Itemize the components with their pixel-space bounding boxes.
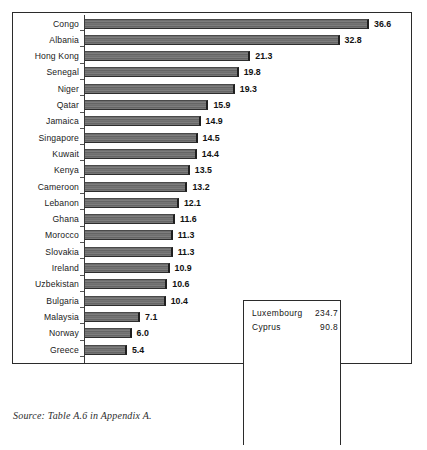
bar-row: Singapore14.5 xyxy=(13,130,411,146)
bar xyxy=(85,279,167,289)
bar-value-label: 10.4 xyxy=(171,293,188,309)
bar-value-label: 15.9 xyxy=(213,97,230,113)
bar-row: Lebanon12.1 xyxy=(13,195,411,211)
offscale-value-label: 90.8 xyxy=(308,322,338,332)
bar-value-label: 10.9 xyxy=(175,260,192,276)
bar-row: Morocco11.3 xyxy=(13,227,411,243)
category-label: Bulgaria xyxy=(13,293,79,309)
bar-value-label: 12.1 xyxy=(184,195,201,211)
bar xyxy=(85,84,235,94)
bar xyxy=(85,296,166,306)
bar xyxy=(85,263,170,273)
bar-row: Kuwait14.4 xyxy=(13,146,411,162)
bar-value-label: 14.9 xyxy=(206,113,223,129)
bar-value-label: 11.3 xyxy=(178,244,195,260)
offscale-row: Luxembourg234.7 xyxy=(252,308,340,322)
axis-tick xyxy=(80,356,84,357)
bar-row: Greece5.4 xyxy=(13,342,411,358)
bar xyxy=(85,51,250,61)
offscale-values-box: Luxembourg234.7Cyprus90.8 xyxy=(243,300,341,445)
bar xyxy=(85,165,190,175)
bar-value-label: 32.8 xyxy=(345,32,362,48)
offscale-country-label: Cyprus xyxy=(252,322,281,332)
bar-value-label: 6.0 xyxy=(137,325,149,341)
bar-row: Malaysia7.1 xyxy=(13,309,411,325)
bar-value-label: 5.4 xyxy=(132,342,144,358)
offscale-row: Cyprus90.8 xyxy=(252,322,340,336)
bar xyxy=(85,214,175,224)
category-label: Greece xyxy=(13,342,79,358)
bar xyxy=(85,230,173,240)
bar xyxy=(85,116,201,126)
category-label: Malaysia xyxy=(13,309,79,325)
plot-area: Congo36.6Albania32.8Hong Kong21.3Senegal… xyxy=(13,13,411,363)
bar-row: Qatar15.9 xyxy=(13,97,411,113)
category-label: Uzbekistan xyxy=(13,276,79,292)
bar-row: Norway6.0 xyxy=(13,325,411,341)
bar-value-label: 14.5 xyxy=(203,130,220,146)
bar-row: Bulgaria10.4 xyxy=(13,293,411,309)
bar xyxy=(85,345,127,355)
bar-value-label: 19.8 xyxy=(244,64,261,80)
category-label: Jamaica xyxy=(13,113,79,129)
bar xyxy=(85,182,187,192)
bar-row: Kenya13.5 xyxy=(13,162,411,178)
category-label: Niger xyxy=(13,81,79,97)
bar-row: Ghana11.6 xyxy=(13,211,411,227)
offscale-country-label: Luxembourg xyxy=(252,308,303,318)
category-label: Lebanon xyxy=(13,195,79,211)
bar-value-label: 19.3 xyxy=(240,81,257,97)
bar-value-label: 21.3 xyxy=(255,48,272,64)
bar xyxy=(85,198,179,208)
bar-row: Congo36.6 xyxy=(13,16,411,32)
bar-value-label: 7.1 xyxy=(145,309,157,325)
bar xyxy=(85,247,173,257)
bar-row: Albania32.8 xyxy=(13,32,411,48)
category-label: Kenya xyxy=(13,162,79,178)
category-label: Kuwait xyxy=(13,146,79,162)
source-note: Source: Table A.6 in Appendix A. xyxy=(13,410,152,421)
bar xyxy=(85,35,340,45)
bar-value-label: 11.6 xyxy=(180,211,197,227)
bar-row: Uzbekistan10.6 xyxy=(13,276,411,292)
bar-row: Niger19.3 xyxy=(13,81,411,97)
category-label: Congo xyxy=(13,16,79,32)
bar-value-label: 13.5 xyxy=(195,162,212,178)
category-label: Cameroon xyxy=(13,179,79,195)
bar xyxy=(85,19,369,29)
offscale-value-label: 234.7 xyxy=(304,308,338,318)
bar-value-label: 13.2 xyxy=(192,179,209,195)
bar-row: Senegal19.8 xyxy=(13,64,411,80)
bar-row: Jamaica14.9 xyxy=(13,113,411,129)
chart-frame: Congo36.6Albania32.8Hong Kong21.3Senegal… xyxy=(12,12,412,364)
bar xyxy=(85,100,208,110)
bar-value-label: 36.6 xyxy=(374,16,391,32)
bar-row: Ireland10.9 xyxy=(13,260,411,276)
category-label: Hong Kong xyxy=(13,48,79,64)
category-label: Ghana xyxy=(13,211,79,227)
bar xyxy=(85,133,198,143)
bar-row: Hong Kong21.3 xyxy=(13,48,411,64)
bar xyxy=(85,312,140,322)
category-label: Qatar xyxy=(13,97,79,113)
bar-value-label: 14.4 xyxy=(202,146,219,162)
bar-row: Slovakia11.3 xyxy=(13,244,411,260)
bar xyxy=(85,328,132,338)
bar-row: Cameroon13.2 xyxy=(13,179,411,195)
category-label: Norway xyxy=(13,325,79,341)
bar xyxy=(85,149,197,159)
bar xyxy=(85,67,239,77)
category-label: Singapore xyxy=(13,130,79,146)
bar-value-label: 11.3 xyxy=(178,227,195,243)
category-label: Slovakia xyxy=(13,244,79,260)
category-label: Ireland xyxy=(13,260,79,276)
category-label: Senegal xyxy=(13,64,79,80)
category-label: Albania xyxy=(13,32,79,48)
bar-value-label: 10.6 xyxy=(172,276,189,292)
category-label: Morocco xyxy=(13,227,79,243)
